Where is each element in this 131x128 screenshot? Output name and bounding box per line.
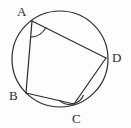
- vertex-label-a: A: [17, 5, 26, 18]
- vertex-label-b: B: [9, 89, 18, 102]
- angle-arc-a: [31, 27, 46, 37]
- edge-ab: [26, 21, 32, 93]
- geometry-figure: A B C D: [0, 0, 131, 128]
- vertex-label-d: D: [112, 51, 121, 64]
- vertex-label-c: C: [72, 112, 81, 125]
